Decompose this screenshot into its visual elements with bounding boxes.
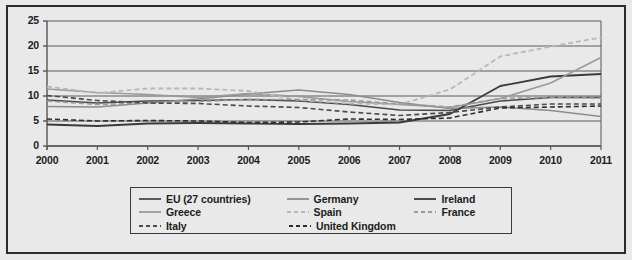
y-tick-label-25: 25 — [13, 14, 39, 26]
legend-row: GreeceSpainFrance — [139, 206, 505, 220]
y-tick-label-5: 5 — [13, 114, 39, 126]
legend-label-united-kingdom: United Kingdom — [316, 220, 396, 232]
chart-legend: EU (27 countries)GermanyIrelandGreeceSpa… — [130, 187, 512, 234]
x-tick-label-2010: 2010 — [531, 154, 571, 166]
legend-label-ireland: Ireland — [441, 193, 475, 205]
legend-swatch-solid-icon — [414, 194, 436, 204]
legend-label-greece: Greece — [166, 206, 201, 218]
legend-label-france: France — [441, 206, 475, 218]
y-tick-label-15: 15 — [13, 64, 39, 76]
legend-row: EU (27 countries)GermanyIreland — [139, 192, 505, 206]
y-tick-label-10: 10 — [13, 89, 39, 101]
legend-item-united-kingdom[interactable]: United Kingdom — [289, 219, 419, 233]
legend-item-france[interactable]: France — [414, 206, 505, 220]
x-tick-label-2008: 2008 — [430, 154, 470, 166]
legend-swatch-dashed-icon — [287, 207, 309, 217]
x-tick-label-2007: 2007 — [380, 154, 420, 166]
chart-figure: 0510152025 20002001200220032004200520062… — [0, 0, 632, 260]
legend-row: ItalyUnited Kingdom — [139, 219, 505, 233]
legend-swatch-dashed-icon — [414, 207, 436, 217]
legend-swatch-solid-icon — [287, 194, 309, 204]
x-tick-label-2011: 2011 — [581, 154, 621, 166]
x-tick-label-2000: 2000 — [27, 154, 67, 166]
legend-item-greece[interactable]: Greece — [139, 206, 287, 220]
x-tick-label-2003: 2003 — [178, 154, 218, 166]
legend-swatch-dashed-icon — [289, 221, 311, 231]
x-tick-label-2006: 2006 — [329, 154, 369, 166]
x-tick-label-2001: 2001 — [77, 154, 117, 166]
legend-swatch-solid-icon — [139, 207, 161, 217]
y-tick-label-20: 20 — [13, 39, 39, 51]
legend-item-spain[interactable]: Spain — [287, 206, 415, 220]
legend-item-ireland[interactable]: Ireland — [414, 192, 505, 206]
legend-swatch-solid-icon — [139, 194, 161, 204]
legend-swatch-dashed-icon — [139, 221, 161, 231]
x-tick-label-2002: 2002 — [128, 154, 168, 166]
legend-label-germany: Germany — [314, 193, 359, 205]
legend-label-spain: Spain — [314, 206, 342, 218]
x-tick-label-2005: 2005 — [279, 154, 319, 166]
legend-item-germany[interactable]: Germany — [287, 192, 415, 206]
x-tick-label-2004: 2004 — [228, 154, 268, 166]
legend-label-eu-27-countries: EU (27 countries) — [166, 193, 251, 205]
legend-label-italy: Italy — [166, 220, 187, 232]
legend-item-italy[interactable]: Italy — [139, 219, 289, 233]
x-tick-label-2009: 2009 — [480, 154, 520, 166]
legend-item-eu-27-countries[interactable]: EU (27 countries) — [139, 192, 287, 206]
y-tick-label-0: 0 — [13, 139, 39, 151]
